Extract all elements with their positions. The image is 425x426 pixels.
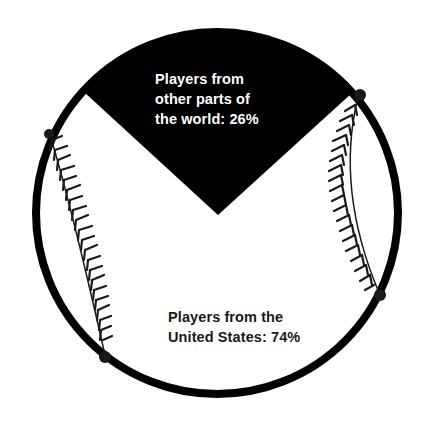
baseball-pie-chart: Players from other parts of the world: 2… xyxy=(0,0,425,426)
label-other-parts-of-world: Players from other parts of the world: 2… xyxy=(155,69,285,129)
label-united-states: Players from the United States: 74% xyxy=(168,307,338,347)
pie-svg xyxy=(0,0,425,426)
